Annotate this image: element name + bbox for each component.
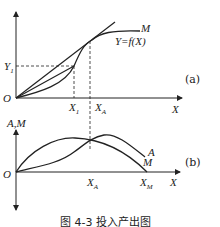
y-axis-label-b: A,M [6, 117, 26, 129]
panel-b: A M A,M O XA XM X (b) [3, 117, 201, 210]
input-output-figure: M Y=f(X) Y1 O X1 XA X (a) A M A,M O XA X… [0, 0, 220, 227]
chord-x1 [16, 66, 74, 98]
average-curve-A [16, 135, 145, 172]
label-M-b: M [142, 156, 153, 168]
x-axis-label-a: X [171, 103, 180, 115]
svg-text:XA: XA [86, 176, 99, 191]
label-M-a: M [140, 22, 151, 34]
panel-a-tag: (a) [185, 73, 200, 86]
figure-caption: 图 4-3 投入产出图 [60, 215, 151, 227]
x-axis-label-b: X [169, 176, 178, 188]
svg-text:XM: XM [139, 176, 154, 191]
origin-b: O [3, 168, 11, 180]
origin-a: O [3, 92, 11, 104]
svg-text:XA: XA [94, 101, 107, 116]
svg-text:Y1: Y1 [4, 60, 14, 75]
curve-equation: Y=f(X) [115, 35, 146, 48]
panel-b-tag: (b) [185, 156, 201, 169]
tangent-ray [16, 22, 115, 98]
panel-a: M Y=f(X) Y1 O X1 XA X (a) [3, 12, 200, 150]
svg-text:X1: X1 [68, 101, 79, 116]
